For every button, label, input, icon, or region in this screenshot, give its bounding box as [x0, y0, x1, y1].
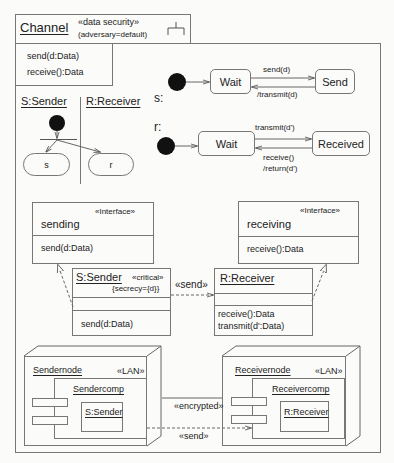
connectors [0, 0, 394, 463]
